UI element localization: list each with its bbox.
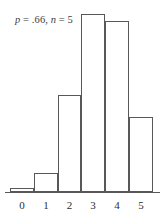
x-tick-label: 4 bbox=[105, 198, 129, 212]
histogram-bar bbox=[129, 117, 153, 192]
histogram-bar bbox=[105, 21, 129, 192]
x-axis-line bbox=[5, 192, 160, 193]
x-tick-label: 5 bbox=[129, 198, 153, 212]
x-tick-label: 1 bbox=[34, 198, 58, 212]
histogram-figure: p = .66, n = 5 012345 bbox=[0, 0, 164, 221]
x-tick-label: 2 bbox=[58, 198, 82, 212]
plot-area bbox=[0, 0, 164, 196]
x-axis-tick-labels: 012345 bbox=[0, 196, 164, 216]
x-tick-label: 0 bbox=[10, 198, 34, 212]
histogram-bar bbox=[81, 14, 105, 192]
x-tick-label: 3 bbox=[81, 198, 105, 212]
histogram-bar bbox=[58, 95, 81, 192]
histogram-bar bbox=[34, 173, 58, 192]
